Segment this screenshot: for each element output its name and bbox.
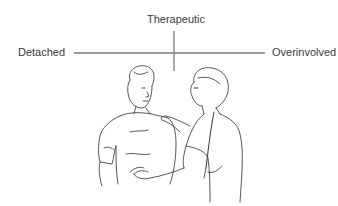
label-overinvolved: Overinvolved: [272, 46, 336, 58]
nurse-figure: [130, 68, 242, 202]
label-detached: Detached: [18, 46, 65, 58]
label-therapeutic: Therapeutic: [140, 13, 212, 25]
nurse-patient-illustration: [90, 62, 270, 206]
